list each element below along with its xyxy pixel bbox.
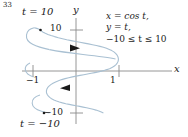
equation-line-y: y = t, [106,22,167,32]
problem-number: 33 [3,2,12,9]
direction-arrow-right-icon [70,45,80,52]
endpoint-label-t-top: t = 10 [22,7,53,17]
x-axis-label: x [174,64,180,74]
curve-arc-left-upper [26,28,49,50]
y-axis-label: y [73,5,79,15]
endpoint-label-t-bottom: t = −10 [20,119,60,129]
parametric-curve-figure: 33 t = 10 t = −10 y x 10 −10 −1 1 x = co… [0,0,188,137]
equation-block: x = cos t, y = t, −10 ≤ t ≤ 10 [106,11,167,45]
equation-line-x: x = cos t, [106,11,167,21]
equation-line-domain: −10 ≤ t ≤ 10 [106,34,167,44]
curve-arc-right-upper [50,50,116,59]
endpoint-dot-t-10 [39,29,42,32]
direction-arrow-left-icon [60,85,70,92]
x-tick-label-1: 1 [110,76,116,85]
x-tick-label-neg1: −1 [26,76,39,85]
y-tick-label-neg10: −10 [44,108,63,117]
y-tick-label-10: 10 [50,24,61,33]
